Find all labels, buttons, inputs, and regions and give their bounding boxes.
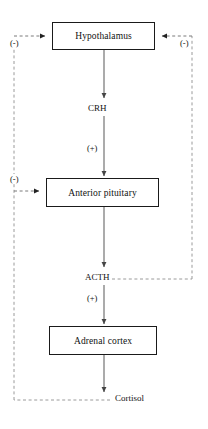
mediator-label-crh: CRH (86, 103, 109, 113)
node-hypothalamus-label: Hypothalamus (75, 31, 132, 41)
sign-negative-right: (-) (179, 38, 190, 48)
sign-negative-left-top: (-) (9, 38, 20, 48)
node-hypothalamus: Hypothalamus (52, 22, 155, 50)
diagram-connectors (0, 0, 208, 429)
sign-positive-crh: (+) (86, 143, 98, 153)
mediator-label-cortisol: Cortisol (113, 393, 146, 403)
hpa-axis-diagram: Hypothalamus Anterior pituitary Adrenal … (0, 0, 208, 429)
sign-negative-left-mid: (-) (9, 174, 20, 184)
sign-positive-acth: (+) (86, 293, 98, 303)
node-adrenal-cortex: Adrenal cortex (49, 326, 157, 355)
node-anterior-pituitary-label: Anterior pituitary (68, 188, 137, 198)
mediator-label-acth: ACTH (83, 272, 112, 282)
node-adrenal-cortex-label: Adrenal cortex (74, 336, 132, 346)
node-anterior-pituitary: Anterior pituitary (46, 178, 159, 207)
